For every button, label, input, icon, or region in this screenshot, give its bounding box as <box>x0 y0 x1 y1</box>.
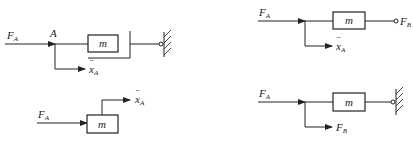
output-arrow <box>305 102 332 127</box>
block-label: m <box>345 14 353 26</box>
pin-joint <box>159 42 163 46</box>
end-label: FB <box>399 15 412 29</box>
pin-joint <box>391 100 395 104</box>
block-label: m <box>345 96 353 108</box>
input-label: FA <box>258 87 271 101</box>
input-label: FA <box>6 29 19 43</box>
output-label: FB <box>335 121 348 135</box>
panel-bottom-right: FA m FB <box>258 87 403 135</box>
node-label: A <box>49 27 57 39</box>
input-label: FA <box>258 6 271 20</box>
wall-icon <box>164 30 171 57</box>
output-arrow <box>102 100 130 115</box>
diagram-canvas: FA A m xA ¨ FA m FB xA ¨ <box>0 0 413 146</box>
output-arrow <box>55 44 85 69</box>
panel-bottom-left: FA m xA ¨ <box>37 87 145 133</box>
panel-top-left: FA A m xA ¨ <box>5 27 171 77</box>
output-arrow <box>305 21 332 46</box>
block-label: m <box>98 118 106 130</box>
wall-icon <box>396 87 403 115</box>
panel-top-right: FA m FB xA ¨ <box>258 6 412 54</box>
input-label: FA <box>37 108 50 122</box>
terminal-icon <box>394 19 398 23</box>
block-label: m <box>99 37 107 49</box>
